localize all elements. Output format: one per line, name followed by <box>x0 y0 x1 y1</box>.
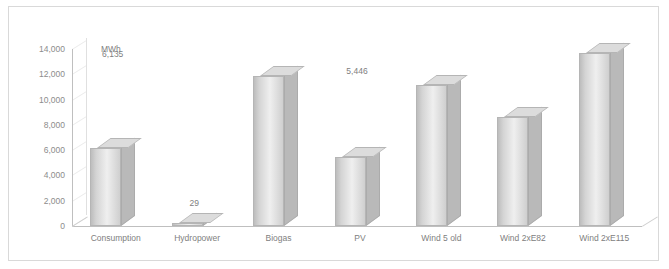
y-axis-tick-label: 6,000 <box>17 145 65 155</box>
bar-front-face <box>335 157 366 226</box>
gridline <box>72 226 642 227</box>
gridline-depth <box>72 65 87 75</box>
gridline-depth <box>72 192 87 202</box>
bar-side-face <box>610 43 624 226</box>
bar[interactable]: 11,860 <box>253 76 284 226</box>
y-axis-tick-label: 4,000 <box>17 170 65 180</box>
bar-side-face <box>447 75 461 226</box>
bar-front-face <box>90 148 121 226</box>
chart-container: MWh 02,0004,0006,0008,00010,00012,00014,… <box>8 6 659 261</box>
y-axis-tick-label: 12,000 <box>17 69 65 79</box>
plot-area: 6,1352911,8605,44611,1478,64013,685 <box>72 49 642 226</box>
y-axis-tick-label: 8,000 <box>17 120 65 130</box>
bar-front-face <box>253 76 284 226</box>
bar-side-face <box>366 147 380 226</box>
bar-side-face <box>121 138 135 226</box>
gridline-depth <box>72 91 87 101</box>
x-axis-category-label: Wind 2xE115 <box>556 233 652 243</box>
bar[interactable]: 8,640 <box>497 117 528 226</box>
bar-front-face <box>416 85 447 226</box>
bar-value-label: 5,446 <box>325 66 390 76</box>
bar-top-face <box>179 213 224 223</box>
bar[interactable]: 6,135 <box>90 148 121 226</box>
bar-side-face <box>284 66 298 226</box>
y-axis-tick-label: 0 <box>17 221 65 231</box>
bar[interactable]: 11,147 <box>416 85 447 226</box>
gridline-depth <box>72 166 87 176</box>
value-axis <box>72 49 73 226</box>
gridline-depth <box>72 116 87 126</box>
y-axis-tick-label: 10,000 <box>17 95 65 105</box>
bar-front-face <box>172 223 203 226</box>
y-axis-tick-labels: 02,0004,0006,0008,00010,00012,00014,000 <box>9 49 65 226</box>
bar[interactable]: 13,685 <box>579 53 610 226</box>
bar-value-label: 6,135 <box>80 49 145 59</box>
bar[interactable]: 5,446 <box>335 157 366 226</box>
gridline-depth <box>72 141 87 151</box>
bar-top-face <box>260 66 305 76</box>
bar-top-face <box>504 107 549 117</box>
bar-top-face <box>97 138 142 148</box>
bar[interactable]: 29 <box>172 223 203 226</box>
bar-front-face <box>579 53 610 226</box>
bar-value-label: 29 <box>162 198 227 208</box>
x-axis-category-labels: ConsumptionHydropowerBiogasPVWind 5 oldW… <box>72 233 662 257</box>
floor-edge-right <box>642 216 658 226</box>
y-axis-tick-label: 14,000 <box>17 44 65 54</box>
y-axis-tick-label: 2,000 <box>17 196 65 206</box>
value-axis-back <box>86 38 87 215</box>
bar-side-face <box>528 107 542 226</box>
bar-front-face <box>497 117 528 226</box>
